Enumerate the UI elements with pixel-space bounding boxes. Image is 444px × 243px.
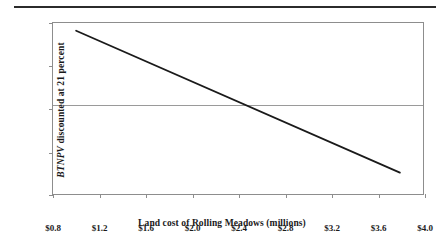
x-tick-mark-8: [425, 194, 426, 198]
x-tick-mark-2: [146, 194, 147, 198]
plot-area: BTNPV discounted at 21 percent $10 5 0 -…: [52, 22, 424, 195]
x-tick-mark-5: [286, 194, 287, 198]
x-tick-mark-6: [332, 194, 333, 198]
x-tick-mark-1: [100, 194, 101, 198]
x-axis-label: Land cost of Rolling Meadows (millions): [0, 218, 444, 228]
x-tick-mark-0: [53, 194, 54, 198]
x-tick-mark-7: [379, 194, 380, 198]
series-layer: [53, 23, 423, 194]
data-line-btnpv: [76, 31, 400, 173]
x-tick-mark-4: [239, 194, 240, 198]
header-rule: [14, 6, 436, 8]
x-tick-mark-3: [193, 194, 194, 198]
sensitivity-chart-figure: BTNPV discounted at 21 percent $10 5 0 -…: [0, 0, 444, 243]
